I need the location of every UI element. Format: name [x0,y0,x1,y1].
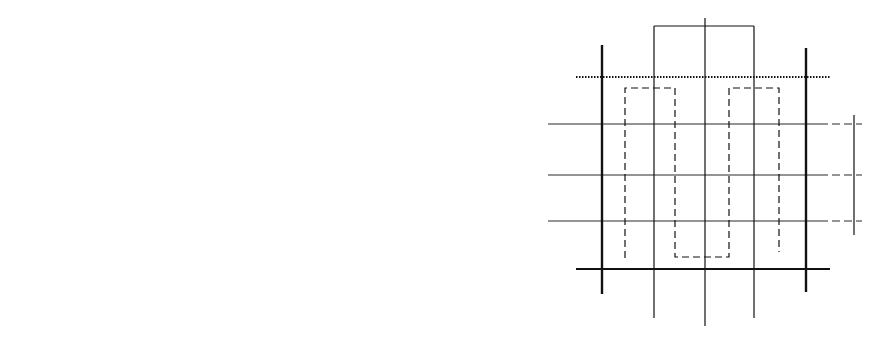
counting-path [625,88,779,258]
panel-b-counting-diagram [0,0,896,344]
